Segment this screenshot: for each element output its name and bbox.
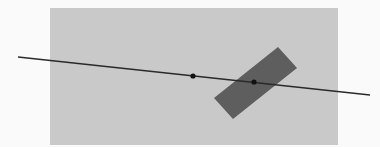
diagram-svg [0, 0, 380, 147]
point-marker [190, 73, 195, 78]
diagram-canvas [0, 0, 380, 147]
point-marker [251, 79, 256, 84]
